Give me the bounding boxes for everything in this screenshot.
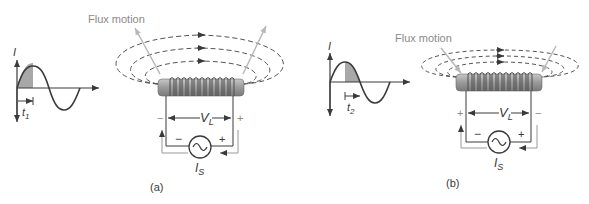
caption-a: (a): [150, 181, 163, 193]
flux-motion-arrow-left-a: [135, 28, 160, 74]
source-right-polarity-a: +: [219, 133, 225, 145]
time-marker-label: t2: [347, 101, 355, 116]
vl-right-polarity-b: −: [535, 107, 541, 119]
vl-right-polarity-a: +: [237, 112, 243, 124]
flux-motion-label-a: Flux motion: [88, 13, 145, 25]
voltage-label-a: VL: [200, 110, 214, 127]
panel-b: I t2 Flux motion: [328, 32, 578, 189]
sine-graph-a: I t1: [13, 46, 99, 122]
flux-motion-arrow-right-a: [243, 26, 266, 74]
inductor-coil-a: [158, 78, 244, 97]
vl-left-polarity-b: +: [457, 107, 463, 119]
source-label-a: IS: [195, 161, 204, 177]
shaded-area-b: [345, 62, 360, 82]
source-left-polarity-a: −: [175, 132, 182, 146]
voltage-label-b: VL: [499, 105, 513, 122]
inductor-coil-b: [456, 73, 542, 92]
y-axis-label: I: [328, 40, 331, 52]
inductor-diagram: I t1 Flux motion: [0, 0, 589, 204]
time-marker-label: t1: [22, 106, 30, 121]
vl-left-polarity-a: −: [157, 112, 163, 124]
y-axis-label: I: [13, 46, 16, 58]
panel-a: I t1 Flux motion: [13, 13, 283, 193]
source-right-polarity-b: +: [518, 128, 524, 140]
caption-b: (b): [446, 177, 459, 189]
flux-motion-label-b: Flux motion: [395, 32, 452, 44]
sine-graph-b: I t2: [328, 40, 410, 116]
source-label-b: IS: [494, 156, 503, 172]
source-left-polarity-b: −: [474, 127, 481, 141]
